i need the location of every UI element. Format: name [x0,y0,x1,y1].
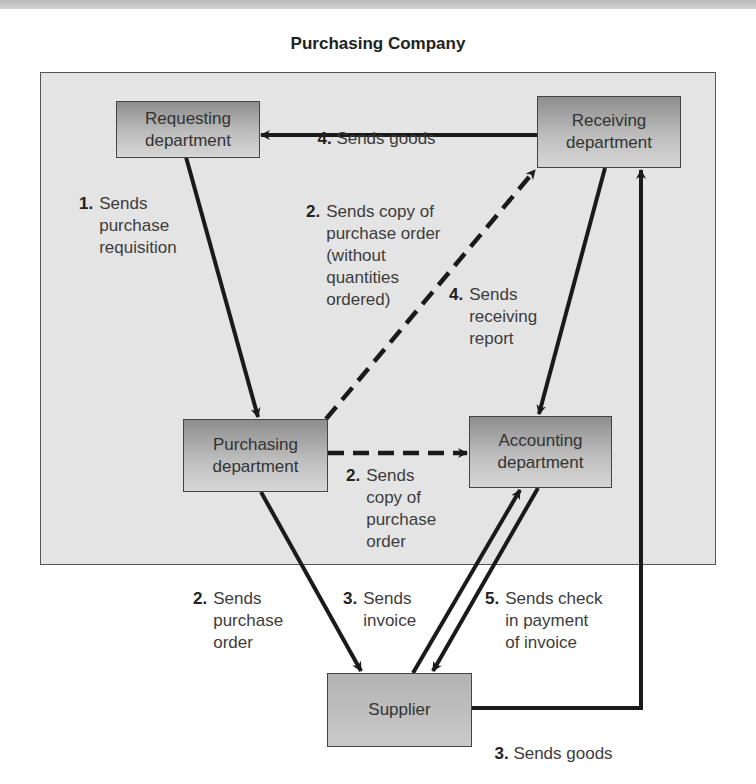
requesting-department-label: Requesting department [145,108,231,152]
label-receiving-report-4: 4.Sends receiving report [449,284,537,350]
receiving-department-label: Receiving department [566,110,652,154]
purchasing-department-box: Purchasing department [183,419,328,492]
label-requisition-1: 1.Sends purchase requisition [79,193,177,259]
requesting-department-box: Requesting department [116,101,260,158]
purchasing-department-label: Purchasing department [213,434,299,478]
accounting-department-box: Accounting department [469,416,612,488]
label-goods-3: 3. Sends goods [485,721,613,765]
label-copy-po-accounting-2: 2.Sends copy of purchase order [346,465,436,553]
arrow-receiving-report [539,168,605,414]
label-check-5: 5.Sends check in payment of invoice [485,588,603,654]
label-sends-goods-4: 4. Sends goods [308,106,436,150]
label-copy-po-receiving-2: 2.Sends copy of purchase order (without … [306,201,441,311]
label-invoice-3: 3.Sends invoice [343,588,416,632]
accounting-department-label: Accounting department [498,430,584,474]
supplier-label: Supplier [368,699,430,721]
supplier-box: Supplier [327,673,472,747]
receiving-department-box: Receiving department [537,96,681,168]
label-purchase-order-2: 2.Sends purchase order [193,588,283,654]
arrow-requisition [186,157,258,417]
